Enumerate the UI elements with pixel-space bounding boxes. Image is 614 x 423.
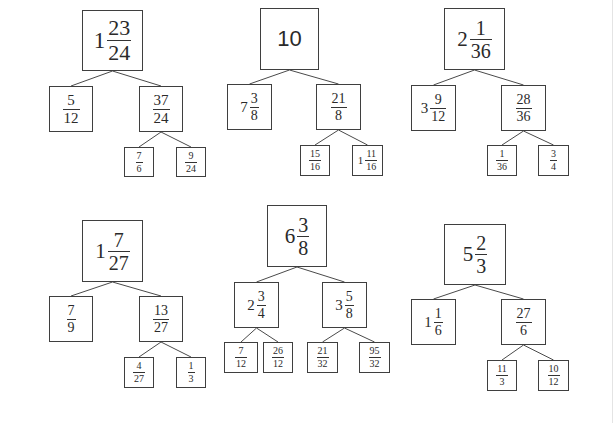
fraction: 924 <box>185 151 197 174</box>
numerator: 3 <box>250 92 259 106</box>
tree-edge <box>434 285 476 299</box>
whole-number: 10 <box>277 28 301 50</box>
tree-node-t5-right: 358 <box>322 282 367 328</box>
fraction: 9532 <box>369 346 381 369</box>
fraction: 1516 <box>309 149 321 172</box>
numerator: 21 <box>317 346 329 356</box>
fraction: 2612 <box>272 346 284 369</box>
tree-edge <box>315 130 339 145</box>
denominator: 6 <box>434 324 443 338</box>
number-value: 2836 <box>516 93 532 124</box>
fraction: 76 <box>136 151 143 174</box>
fraction: 276 <box>516 307 532 338</box>
number-value: 276 <box>516 307 532 338</box>
denominator: 24 <box>185 164 197 174</box>
fraction: 58 <box>345 290 354 321</box>
tree-edge <box>345 328 375 342</box>
fraction: 727 <box>108 230 130 273</box>
denominator: 4 <box>257 307 266 321</box>
numerator: 9 <box>434 93 443 107</box>
numerator: 23 <box>107 17 131 39</box>
denominator: 3 <box>188 374 195 384</box>
numerator: 28 <box>516 93 532 107</box>
number-value: 218 <box>331 92 347 123</box>
whole-part: 1 <box>95 241 106 262</box>
tree-edge <box>434 70 475 85</box>
denominator: 36 <box>516 110 532 124</box>
tree-node-t1-right: 3724 <box>139 86 183 132</box>
tree-node-t6-rr: 1012 <box>538 360 569 391</box>
tree-node-t3-root: 2136 <box>444 8 505 70</box>
number-value: 13 <box>188 361 195 384</box>
tree-node-t3-rl: 136 <box>487 145 517 176</box>
numerator: 3 <box>297 215 309 235</box>
number-value: 1012 <box>548 364 560 387</box>
tree-node-t3-rr: 34 <box>538 145 569 176</box>
tree-edge <box>297 267 345 282</box>
fraction: 1327 <box>153 304 169 335</box>
numerator: 4 <box>136 361 143 371</box>
fraction: 23 <box>475 233 487 276</box>
fraction: 113 <box>496 364 508 387</box>
numerator: 27 <box>516 307 532 321</box>
number-value: 12324 <box>94 17 132 64</box>
numerator: 21 <box>331 92 347 106</box>
tree-node-t2-rl: 1516 <box>300 145 330 176</box>
number-value: 3912 <box>421 93 447 124</box>
fraction: 79 <box>67 304 76 335</box>
number-value: 1516 <box>309 149 321 172</box>
tree-node-t3-right: 2836 <box>501 85 546 131</box>
fraction: 136 <box>470 18 492 61</box>
numerator: 5 <box>66 93 76 108</box>
tree-edge <box>161 132 191 147</box>
numerator: 11 <box>496 364 508 374</box>
number-value: 2612 <box>272 346 284 369</box>
numerator: 15 <box>309 149 321 159</box>
denominator: 36 <box>470 41 492 61</box>
tree-node-t2-root: 10 <box>260 8 319 70</box>
whole-part: 1 <box>424 315 432 330</box>
fraction: 427 <box>133 361 145 384</box>
denominator: 12 <box>430 110 446 124</box>
denominator: 3 <box>498 377 505 387</box>
fraction: 38 <box>250 92 259 123</box>
denominator: 8 <box>297 238 309 258</box>
tree-edge <box>290 70 339 84</box>
tree-node-t4-rr: 13 <box>176 357 206 388</box>
tree-node-t1-rr: 924 <box>176 147 206 177</box>
number-value: 76 <box>136 151 143 174</box>
tree-node-t5-root: 638 <box>267 205 327 267</box>
tree-edge <box>475 285 524 299</box>
fraction: 34 <box>257 290 266 321</box>
numerator: 95 <box>369 346 381 356</box>
numerator: 26 <box>272 346 284 356</box>
numerator: 1 <box>434 307 443 321</box>
numerator: 13 <box>153 304 169 318</box>
fraction: 512 <box>63 93 80 126</box>
fraction: 2836 <box>516 93 532 124</box>
tree-edge <box>502 345 524 360</box>
fraction: 34 <box>550 149 557 172</box>
tree-edge <box>257 267 298 282</box>
number-value: 1327 <box>153 304 169 335</box>
tree-edge <box>161 342 191 357</box>
numerator: 9 <box>188 151 195 161</box>
tree-edge <box>139 132 161 147</box>
denominator: 6 <box>136 164 143 174</box>
number-value: 34 <box>550 149 557 172</box>
tree-node-t1-root: 12324 <box>82 10 143 71</box>
tree-node-t4-root: 1727 <box>82 220 143 282</box>
numerator: 7 <box>67 304 76 318</box>
tree-node-t5-lr: 2612 <box>263 342 293 373</box>
denominator: 6 <box>519 324 528 338</box>
number-value: 523 <box>463 233 488 276</box>
tree-edge <box>524 345 554 360</box>
denominator: 32 <box>369 359 381 369</box>
tree-node-t6-right: 276 <box>501 299 546 345</box>
whole-part: 2 <box>247 298 255 313</box>
numerator: 1 <box>188 361 195 371</box>
numerator: 1 <box>475 18 487 38</box>
tree-node-t2-left: 738 <box>227 84 272 130</box>
denominator: 8 <box>345 307 354 321</box>
denominator: 27 <box>108 253 130 273</box>
